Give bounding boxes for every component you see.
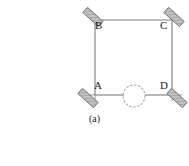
corner-label-d: D	[160, 80, 168, 91]
corner-label-c: C	[160, 20, 167, 31]
corner-label-b: B	[95, 20, 102, 31]
mirror-D	[167, 88, 187, 107]
dotted-circle-region	[123, 85, 145, 107]
corner-label-a: A	[94, 80, 102, 91]
ring-cavity-figure: B C A D (a)	[0, 0, 189, 166]
figure-caption: (a)	[0, 113, 189, 124]
